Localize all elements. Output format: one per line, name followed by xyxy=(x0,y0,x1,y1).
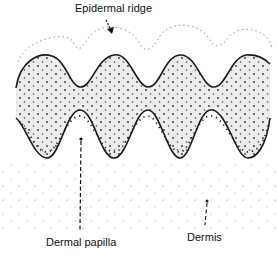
dermis-region xyxy=(0,162,277,232)
label-dermis: Dermis xyxy=(187,231,222,243)
stratum-corneum-dotted-outline xyxy=(18,25,272,62)
epidermis-stipple xyxy=(16,55,270,158)
label-dermal-papilla: Dermal papilla xyxy=(46,236,116,248)
label-epidermal-ridge: Epidermal ridge xyxy=(75,2,152,14)
skin-cross-section-diagram xyxy=(0,0,277,256)
